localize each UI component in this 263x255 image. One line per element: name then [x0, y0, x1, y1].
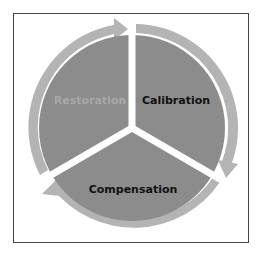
- segment-label-calibration: Calibration: [142, 94, 210, 107]
- segment-label-restoration: Restoration: [54, 94, 127, 107]
- cycle-diagram: Restoration Calibration Compensation: [0, 0, 263, 255]
- arrow-head-right: [218, 160, 238, 178]
- segment-label-compensation: Compensation: [89, 183, 178, 196]
